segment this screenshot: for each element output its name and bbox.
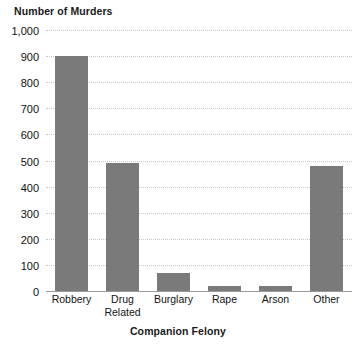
bar bbox=[310, 166, 343, 291]
y-tick-label: 900 bbox=[21, 51, 39, 63]
x-tick-label: Other bbox=[293, 293, 356, 306]
bar-series bbox=[46, 30, 352, 291]
bar bbox=[208, 286, 241, 291]
bar bbox=[157, 273, 190, 291]
x-axis-baseline: 0 bbox=[46, 291, 352, 292]
bar bbox=[55, 56, 88, 291]
y-tick-label: 800 bbox=[21, 77, 39, 89]
x-tick-label-line: Related bbox=[89, 306, 157, 319]
x-tick-label-line: Other bbox=[293, 293, 356, 306]
y-tick-label: 200 bbox=[21, 234, 39, 246]
x-axis-title: Companion Felony bbox=[0, 325, 356, 337]
y-tick-label: 400 bbox=[21, 182, 39, 194]
y-tick-label: 500 bbox=[21, 156, 39, 168]
y-tick-label: 300 bbox=[21, 208, 39, 220]
y-tick-label: 600 bbox=[21, 129, 39, 141]
y-axis-title: Number of Murders bbox=[14, 5, 113, 17]
x-axis-tick-labels: RobberyDrugRelatedBurglaryRapeArsonOther bbox=[46, 293, 352, 323]
bar bbox=[106, 163, 139, 291]
bar bbox=[259, 286, 292, 291]
bar-chart: Number of Murders 0100200300400500600700… bbox=[0, 0, 356, 346]
plot-area: 01002003004005006007008009001,000 bbox=[46, 30, 352, 291]
y-tick-label: 100 bbox=[21, 260, 39, 272]
y-tick-label: 1,000 bbox=[11, 25, 39, 37]
y-tick-label: 700 bbox=[21, 103, 39, 115]
